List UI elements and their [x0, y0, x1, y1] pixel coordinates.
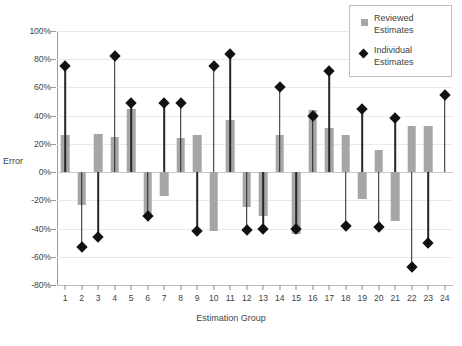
legend-individual-line2: Estimates [374, 57, 414, 67]
x-tick-mark [98, 285, 99, 290]
x-tick-label: 15 [291, 293, 301, 303]
x-tick-mark [329, 285, 330, 290]
y-tick-mark [51, 87, 56, 88]
y-tick-label: 60% [0, 82, 51, 92]
chart-group [255, 31, 272, 285]
chart-group [272, 31, 289, 285]
y-tick-label: -20% [0, 195, 51, 205]
x-tick-label: 9 [195, 293, 200, 303]
chart-group [123, 31, 140, 285]
y-tick-mark [51, 144, 56, 145]
individual-estimate-stem [427, 172, 429, 243]
x-tick-label: 6 [145, 293, 150, 303]
legend-reviewed-line2: Estimates [374, 25, 414, 35]
individual-estimate-marker [175, 97, 186, 108]
y-tick-label: 0% [0, 167, 51, 177]
y-tick-mark [51, 172, 56, 173]
y-tick-label: 20% [0, 139, 51, 149]
chart-group [189, 31, 206, 285]
legend-label-individual: Individual Estimates [374, 45, 414, 68]
reviewed-estimate-bar [407, 126, 416, 173]
y-axis-title: Error [3, 156, 23, 166]
chart-figure: 100%80%60%40%20%0%-20%-40%-60%-80% Error… [0, 0, 462, 346]
x-tick-label: 3 [96, 293, 101, 303]
y-tick-label: 100% [0, 26, 51, 36]
reviewed-estimate-bar [424, 126, 433, 173]
reviewed-estimate-bar [160, 172, 169, 196]
individual-estimate-marker [274, 82, 285, 93]
y-tick-label: 40% [0, 111, 51, 121]
y-tick-label: -80% [0, 280, 51, 290]
x-tick-label: 21 [390, 293, 400, 303]
individual-estimate-marker [406, 261, 417, 272]
x-tick-mark [312, 285, 313, 290]
x-tick-mark [180, 285, 181, 290]
individual-estimate-marker [93, 231, 104, 242]
individual-estimate-marker [258, 223, 269, 234]
individual-estimate-marker [60, 61, 71, 72]
x-tick-mark [131, 285, 132, 290]
chart-group [222, 31, 239, 285]
individual-estimate-stem [394, 118, 396, 172]
individual-estimate-marker [241, 224, 252, 235]
x-tick-mark [362, 285, 363, 290]
individual-estimate-stem [229, 54, 231, 173]
x-tick-label: 7 [162, 293, 167, 303]
individual-estimate-stem [361, 109, 363, 173]
x-tick-mark [395, 285, 396, 290]
y-tick-mark [51, 257, 56, 258]
individual-estimate-stem [411, 172, 413, 267]
x-tick-label: 16 [308, 293, 318, 303]
individual-estimate-marker [373, 221, 384, 232]
x-tick-mark [81, 285, 82, 290]
legend-item-individual-estimates: Individual Estimates [358, 45, 414, 68]
chart-group [288, 31, 305, 285]
chart-group [321, 31, 338, 285]
x-tick-label: 10 [209, 293, 219, 303]
x-tick-mark [279, 285, 280, 290]
reviewed-estimate-bar [94, 134, 103, 172]
y-tick-mark [51, 200, 56, 201]
individual-estimate-stem [312, 116, 314, 172]
individual-estimate-marker [390, 113, 401, 124]
chart-group [57, 31, 74, 285]
x-tick-label: 14 [275, 293, 285, 303]
chart-group [305, 31, 322, 285]
x-tick-label: 13 [258, 293, 268, 303]
x-tick-mark [230, 285, 231, 290]
y-tick-label: -60% [0, 252, 51, 262]
x-tick-mark [428, 285, 429, 290]
reviewed-estimate-bar [193, 135, 202, 172]
reviewed-estimate-bar [391, 172, 400, 221]
individual-estimate-marker [225, 48, 236, 59]
x-tick-mark [345, 285, 346, 290]
chart-group [74, 31, 91, 285]
individual-estimate-stem [97, 172, 99, 237]
individual-estimate-stem [246, 172, 248, 230]
x-tick-label: 11 [226, 293, 235, 303]
x-axis-line [57, 285, 453, 286]
individual-estimate-stem [262, 172, 264, 228]
x-tick-mark [263, 285, 264, 290]
x-tick-mark [164, 285, 165, 290]
y-tick-mark [51, 285, 56, 286]
x-tick-mark [147, 285, 148, 290]
individual-estimate-marker [159, 97, 170, 108]
x-tick-label: 1 [63, 293, 68, 303]
reviewed-estimate-bar [374, 150, 383, 173]
x-tick-label: 12 [242, 293, 252, 303]
x-tick-mark [378, 285, 379, 290]
legend-individual-line1: Individual [374, 45, 412, 55]
individual-estimate-marker [324, 65, 335, 76]
y-tick-mark [51, 229, 56, 230]
chart-group [107, 31, 124, 285]
individual-estimate-marker [439, 89, 450, 100]
individual-estimate-marker [126, 97, 137, 108]
x-tick-mark [65, 285, 66, 290]
x-tick-label: 2 [79, 293, 84, 303]
legend-diamond-icon [358, 45, 374, 65]
individual-estimate-stem [81, 172, 83, 247]
x-tick-label: 17 [324, 293, 334, 303]
x-tick-mark [411, 285, 412, 290]
x-tick-label: 18 [341, 293, 351, 303]
